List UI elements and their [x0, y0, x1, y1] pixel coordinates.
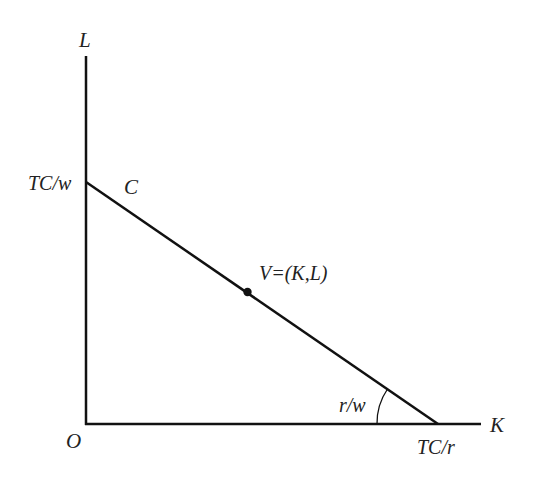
y-intercept-label: TC/w [28, 172, 72, 194]
isocost-diagram: L K O TC/w C V=(K,L) r/w TC/r [0, 0, 533, 477]
slope-angle-arc [377, 389, 388, 424]
slope-label: r/w [339, 394, 366, 416]
point-v [243, 288, 251, 296]
origin-label: O [66, 429, 81, 453]
line-name-label: C [124, 175, 139, 199]
x-axis-label: K [489, 413, 505, 437]
y-axis-label: L [78, 28, 91, 52]
x-intercept-label: TC/r [417, 436, 455, 458]
isocost-line-c [86, 182, 438, 424]
point-v-label: V=(K,L) [259, 262, 328, 285]
